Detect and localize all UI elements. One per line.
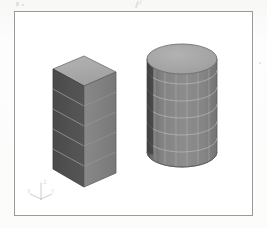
axis-triad-y-label: Y xyxy=(51,188,55,194)
axis-triad-y-arm xyxy=(41,194,52,199)
axis-triad[interactable]: Z X Y xyxy=(27,179,55,205)
axis-triad-z-label: Z xyxy=(44,179,47,185)
cylinder-shadow-band xyxy=(147,59,153,155)
scan-speckle-1 xyxy=(16,2,19,6)
axis-triad-x-label: X xyxy=(27,188,31,194)
model-viewport-frame[interactable]: Z X Y xyxy=(14,11,253,216)
axis-triad-origin xyxy=(40,198,42,200)
scan-speckle-2 xyxy=(22,4,24,6)
scan-speckle-5 xyxy=(259,62,261,64)
axis-triad-x-arm xyxy=(30,194,41,199)
cylinder-top-cap xyxy=(147,44,217,74)
3d-scene[interactable]: Z X Y xyxy=(15,12,252,215)
cylinder-body xyxy=(147,59,217,169)
